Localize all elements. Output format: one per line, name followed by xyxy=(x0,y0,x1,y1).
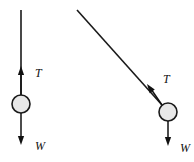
vertical-weight-label: W xyxy=(35,139,46,153)
inclined-tension-label: T xyxy=(163,72,171,86)
vertical-weight-arrowhead xyxy=(18,136,24,145)
figure-canvas: T W T W xyxy=(0,0,194,162)
vertical-bob-circle xyxy=(12,95,30,113)
vertical-tension-arrowhead xyxy=(18,66,24,75)
inclined-bob-circle xyxy=(159,103,177,121)
vertical-case-group: T W xyxy=(12,10,46,153)
vertical-tension-label: T xyxy=(35,66,43,80)
inclined-weight-arrowhead xyxy=(165,137,171,146)
physics-free-body-diagram: T W T W xyxy=(0,0,194,162)
inclined-tension-arrow-shaft xyxy=(151,89,162,105)
inclined-weight-label: W xyxy=(180,141,191,155)
inclined-case-group: T W xyxy=(77,10,191,155)
